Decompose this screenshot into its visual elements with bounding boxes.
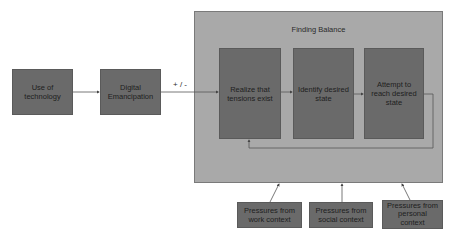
arrow-feedback-loop: [249, 94, 433, 148]
connector-lines: [0, 0, 458, 240]
arrow-work-pressure: [270, 184, 279, 202]
arrow-personal-pressure: [402, 184, 410, 200]
